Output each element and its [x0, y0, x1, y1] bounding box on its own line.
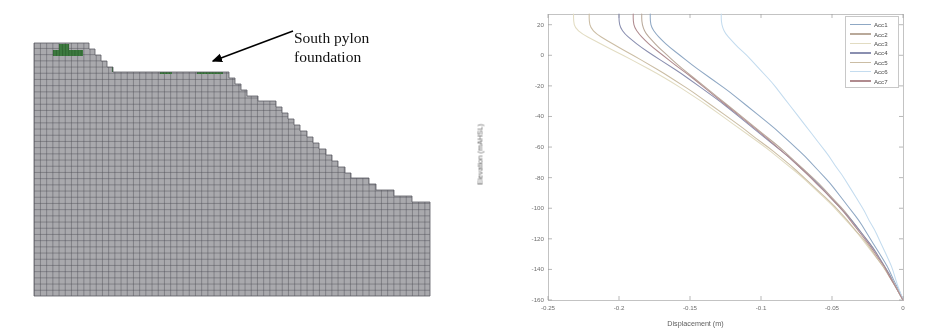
y-tick-label: -120: [526, 235, 544, 242]
legend-item-acc4[interactable]: Acc4: [848, 48, 896, 57]
legend-item-label: Acc2: [874, 31, 888, 38]
x-tick-label: -0.1: [752, 304, 770, 311]
legend-item-label: Acc1: [874, 21, 888, 28]
y-tick-label: -80: [526, 174, 544, 181]
figure-pair-root: South pylon foundation -0.25-0.2-0.15-0.…: [0, 0, 931, 334]
x-axis-title: Displacement (m): [460, 319, 931, 328]
legend-item-acc2[interactable]: Acc2: [848, 29, 896, 38]
annotation-label: South pylon foundation: [294, 29, 444, 67]
y-tick-label: 20: [526, 21, 544, 28]
y-tick-label: -60: [526, 143, 544, 150]
finite-element-mesh-figure: South pylon foundation: [0, 0, 460, 334]
x-tick-label: -0.05: [823, 304, 841, 311]
annotation-arrow-icon: [205, 28, 300, 70]
legend-color-swatch: [850, 52, 871, 53]
legend-item-acc1[interactable]: Acc1: [848, 20, 896, 29]
legend-item-label: Acc4: [874, 49, 888, 56]
x-tick-label: -0.25: [539, 304, 557, 311]
legend-item-label: Acc5: [874, 59, 888, 66]
legend-color-swatch: [850, 24, 871, 25]
legend-item-label: Acc7: [874, 78, 888, 85]
y-tick-label: -140: [526, 265, 544, 272]
displacement-profile-plot: -0.25-0.2-0.15-0.1-0.050200-20-40-60-80-…: [460, 0, 931, 334]
y-tick-label: -100: [526, 204, 544, 211]
x-tick-label: 0: [894, 304, 912, 311]
legend-color-swatch: [850, 62, 871, 63]
legend-color-swatch: [850, 71, 871, 72]
chart-legend: Acc1Acc2Acc3Acc4Acc5Acc6Acc7: [845, 16, 899, 88]
legend-item-label: Acc3: [874, 40, 888, 47]
legend-item-acc7[interactable]: Acc7: [848, 76, 896, 85]
annotation-label-line2: foundation: [294, 48, 444, 67]
y-tick-label: -160: [526, 296, 544, 303]
legend-color-swatch: [850, 33, 871, 34]
legend-item-acc6[interactable]: Acc6: [848, 67, 896, 76]
legend-item-label: Acc6: [874, 68, 888, 75]
y-tick-label: -40: [526, 112, 544, 119]
legend-color-swatch: [850, 43, 871, 44]
legend-item-acc3[interactable]: Acc3: [848, 39, 896, 48]
legend-color-swatch: [850, 80, 871, 81]
x-tick-label: -0.2: [610, 304, 628, 311]
annotation-label-line1: South pylon: [294, 29, 444, 48]
legend-item-acc5[interactable]: Acc5: [848, 58, 896, 67]
y-axis-title: Elevation (mAHSL): [476, 100, 485, 210]
y-tick-label: -20: [526, 82, 544, 89]
y-tick-label: 0: [526, 51, 544, 58]
x-tick-label: -0.15: [681, 304, 699, 311]
